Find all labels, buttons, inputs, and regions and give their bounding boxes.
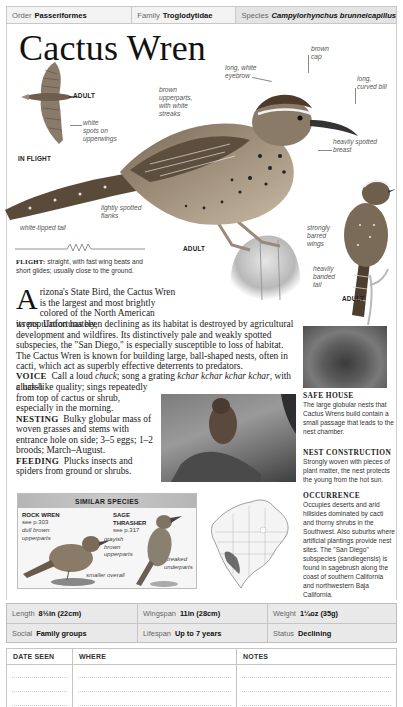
date-seen-field[interactable] bbox=[7, 665, 73, 707]
nesting-entry: NESTING Bulky globular mass of woven gra… bbox=[16, 414, 156, 456]
main-adult-label: ADULT bbox=[183, 245, 205, 252]
stats-row: SocialFamily groups LifespanUp to 7 year… bbox=[7, 623, 396, 642]
notes-field[interactable] bbox=[237, 665, 396, 707]
field-guide-page: Order Passeriformes Family Troglodytidae… bbox=[0, 0, 403, 707]
annotation-leader bbox=[318, 150, 332, 151]
family-value: Troglodytidae bbox=[163, 11, 213, 20]
nest-construction-heading: NEST CONSTRUCTION bbox=[303, 448, 391, 457]
species-value: Campylorhynchus brunneicapillus bbox=[272, 11, 396, 20]
wingspan-stat: Wingspan11in (28cm) bbox=[138, 604, 268, 623]
occurrence-text: Occupies deserts and arid hillsides domi… bbox=[303, 500, 395, 599]
notes-header: NOTES bbox=[237, 649, 396, 664]
curved-bill-annotation: long, curved bill bbox=[357, 75, 387, 91]
flight-description: FLIGHT: straight, with fast wing beats a… bbox=[16, 257, 156, 275]
log-body bbox=[7, 665, 396, 707]
annotation-leader bbox=[355, 88, 356, 104]
spotted-breast-annotation: heavily spotted breast bbox=[333, 138, 377, 154]
voice-continued: cluck-like quality; sings repeatedly fro… bbox=[16, 382, 156, 414]
stats-table: Length8½in (22cm) Wingspan11in (28cm) We… bbox=[6, 603, 397, 643]
status-stat: StatusDeclining bbox=[268, 624, 396, 642]
lifespan-stat: LifespanUp to 7 years bbox=[138, 624, 268, 642]
feeding-entry: FEEDING Plucks insects and spiders from … bbox=[16, 456, 156, 477]
annotation-leader bbox=[308, 55, 309, 73]
flight-pattern-icon bbox=[15, 242, 145, 252]
rock-wren-illustration bbox=[23, 528, 113, 588]
where-header: WHERE bbox=[73, 649, 237, 664]
sighting-log-table: DATE SEEN WHERE NOTES bbox=[6, 648, 397, 707]
details-column: cluck-like quality; sings repeatedly fro… bbox=[16, 382, 156, 477]
brown-upperparts-annotation: brown upperparts, with white streaks bbox=[159, 86, 192, 118]
taxonomy-order: Order Passeriformes bbox=[7, 7, 132, 23]
photo-bird-shape bbox=[161, 394, 296, 482]
weight-stat: Weight1¼oz (35g) bbox=[268, 604, 396, 623]
safe-house-heading: SAFE HOUSE bbox=[303, 391, 354, 400]
banded-tail-annotation: heavily banded tail bbox=[313, 265, 335, 289]
species-label: Species bbox=[241, 11, 268, 20]
white-tipped-tail-annotation: white-tipped tail bbox=[20, 224, 66, 232]
rock-wren-page-link[interactable]: see p.303 bbox=[22, 519, 48, 525]
taxonomy-family: Family Troglodytidae bbox=[132, 7, 236, 23]
order-value: Passeriformes bbox=[34, 11, 86, 20]
safe-house-text: The large globular nests that Cactus Wre… bbox=[303, 400, 395, 436]
order-label: Order bbox=[12, 11, 31, 20]
similar-species-body: ROCK WREN see p.303 dull brown upperpart… bbox=[18, 508, 196, 588]
wren-on-cactus-photo bbox=[161, 394, 296, 482]
stats-row: Length8½in (22cm) Wingspan11in (28cm) We… bbox=[7, 604, 396, 623]
social-stat: SocialFamily groups bbox=[7, 624, 138, 642]
drop-cap: A bbox=[16, 288, 38, 310]
spotted-flanks-annotation: lightly spotted flanks bbox=[101, 204, 141, 220]
date-seen-header: DATE SEEN bbox=[7, 649, 73, 664]
log-header: DATE SEEN WHERE NOTES bbox=[7, 649, 396, 665]
barred-wings-annotation: strongly barred wings bbox=[307, 224, 330, 248]
side-adult-label: ADULT bbox=[342, 295, 364, 302]
length-stat: Length8½in (22cm) bbox=[7, 604, 138, 623]
taxonomy-bar: Order Passeriformes Family Troglodytidae… bbox=[6, 6, 397, 24]
brown-cap-annotation: brown cap bbox=[311, 45, 329, 61]
occurrence-heading: OCCURRENCE bbox=[303, 491, 360, 500]
where-field[interactable] bbox=[73, 665, 237, 707]
similar-species-heading: SIMILAR SPECIES bbox=[18, 494, 196, 508]
range-map bbox=[203, 494, 295, 594]
taxonomy-species: Species Campylorhynchus brunneicapillus bbox=[236, 7, 396, 23]
family-label: Family bbox=[137, 11, 159, 20]
nest-construction-text: Strongly woven with pieces of plant matt… bbox=[303, 457, 395, 484]
sage-thrasher-illustration bbox=[128, 508, 188, 588]
intro-paragraph-continued: its population has been declining as its… bbox=[16, 319, 296, 372]
nest-photo bbox=[303, 326, 387, 388]
similar-species-box: SIMILAR SPECIES ROCK WREN see p.303 dull… bbox=[17, 493, 197, 589]
